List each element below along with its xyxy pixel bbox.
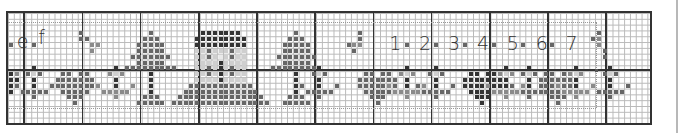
flower-stitch	[38, 90, 42, 94]
house-stitch	[189, 84, 193, 88]
house-stitch	[201, 84, 205, 88]
tree-right-stitch	[277, 55, 281, 59]
tree-right-stitch	[277, 66, 281, 70]
house-stitch	[230, 61, 234, 65]
major-grid-line-vertical	[373, 13, 375, 123]
tree-left-stitch	[155, 61, 159, 65]
house-stitch	[259, 101, 263, 105]
house-stitch	[248, 95, 252, 99]
house-stitch	[207, 43, 211, 47]
separator-stitch	[521, 43, 525, 47]
flower-stitch	[626, 84, 630, 88]
tree-right-stitch	[283, 66, 287, 70]
house-stitch	[259, 95, 263, 99]
house-stitch	[230, 43, 234, 47]
house-stitch	[195, 78, 199, 82]
house-stitch	[242, 37, 246, 41]
bird-mid-stitch	[352, 49, 356, 53]
heart-stitch	[67, 72, 71, 76]
chart-label-7: 7	[566, 34, 578, 53]
flower-stitch	[317, 90, 321, 94]
house-stitch	[248, 101, 252, 105]
house-stitch	[224, 66, 228, 70]
major-grid-line-vertical	[489, 13, 491, 123]
tree-right-stitch	[300, 37, 304, 41]
tree-left-stitch	[160, 49, 164, 53]
house-stitch	[219, 101, 223, 105]
flower-stitch	[44, 90, 48, 94]
heart-stitch	[79, 95, 83, 99]
tree-left-stitch	[149, 66, 153, 70]
flower-stitch	[527, 78, 531, 82]
house-stitch	[195, 90, 199, 94]
house-stitch	[189, 95, 193, 99]
house-stitch	[219, 55, 223, 59]
house-stitch	[195, 101, 199, 105]
tree-right-stitch	[283, 43, 287, 47]
house-stitch	[230, 55, 234, 59]
flower-stitch	[405, 66, 409, 70]
heart-stitch	[67, 90, 71, 94]
heart-stitch	[475, 72, 479, 76]
heart-stitch	[486, 72, 490, 76]
flower-stitch	[317, 72, 321, 76]
heart-stitch	[79, 84, 83, 88]
heart-stitch	[475, 95, 479, 99]
heart-stitch	[56, 84, 60, 88]
house-stitch	[184, 95, 188, 99]
heart-stitch	[358, 78, 362, 82]
tree-right-stitch	[312, 55, 316, 59]
house-stitch	[189, 90, 193, 94]
house-stitch	[248, 90, 252, 94]
tree-left-stitch	[143, 101, 147, 105]
tree-left-stitch	[155, 66, 159, 70]
house-stitch	[230, 72, 234, 76]
flower-stitch	[608, 66, 612, 70]
house-stitch	[207, 78, 211, 82]
house-stitch	[230, 95, 234, 99]
flower-stitch	[114, 95, 118, 99]
heart-stitch	[544, 90, 548, 94]
separator-stitch	[434, 43, 438, 47]
heart-stitch	[492, 72, 496, 76]
house-stitch	[207, 101, 211, 105]
heart-stitch	[544, 78, 548, 82]
tree-right-stitch	[294, 66, 298, 70]
house-stitch	[195, 72, 199, 76]
tree-right-stitch	[294, 55, 298, 59]
bird-left-stitch	[90, 49, 94, 53]
flower-stitch	[608, 72, 612, 76]
flower-stitch	[568, 90, 572, 94]
heart-stitch	[90, 84, 94, 88]
heart-stitch	[381, 72, 385, 76]
tree-left-stitch	[166, 66, 170, 70]
heart-stitch	[381, 90, 385, 94]
tree-left-stitch	[137, 43, 141, 47]
flower-stitch	[434, 95, 438, 99]
tree-right-stitch	[288, 61, 292, 65]
flower-stitch	[422, 90, 426, 94]
house-stitch	[236, 66, 240, 70]
heart-stitch	[376, 90, 380, 94]
flower-stitch	[434, 78, 438, 82]
flower-stitch	[422, 84, 426, 88]
flower-stitch	[120, 90, 124, 94]
tree-left-stitch	[155, 43, 159, 47]
house-stitch	[236, 31, 240, 35]
flower-stitch	[26, 72, 30, 76]
house-stitch	[201, 95, 205, 99]
flower-stitch	[521, 90, 525, 94]
flower-stitch	[108, 72, 112, 76]
flower-stitch	[608, 90, 612, 94]
major-grid-line-vertical	[82, 13, 84, 123]
heart-stitch	[370, 90, 374, 94]
tree-right-stitch	[283, 101, 287, 105]
heart-stitch	[85, 78, 89, 82]
flower-stitch	[574, 72, 578, 76]
house-stitch	[213, 55, 217, 59]
house-stitch	[213, 95, 217, 99]
flower-stitch	[428, 72, 432, 76]
house-stitch	[236, 49, 240, 53]
flower-stitch	[96, 84, 100, 88]
tree-left-stitch	[149, 61, 153, 65]
